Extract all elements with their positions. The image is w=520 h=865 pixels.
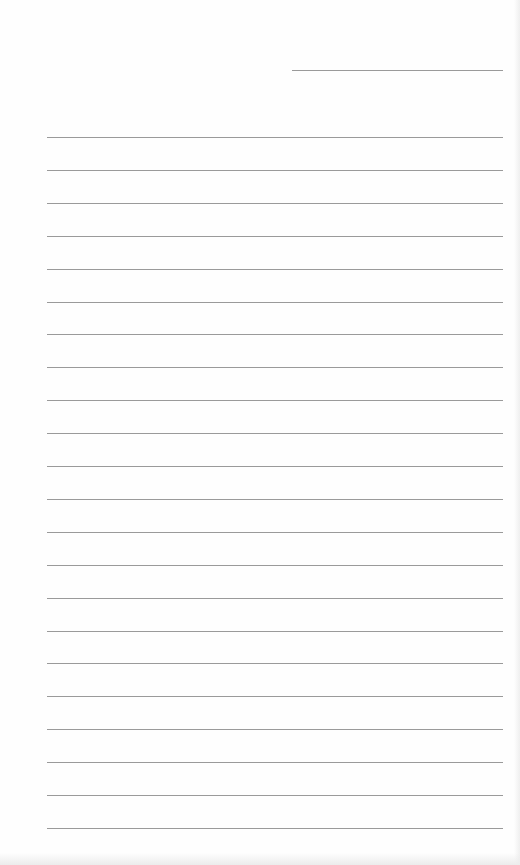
ruled-line <box>47 762 503 763</box>
ruled-line <box>47 203 503 204</box>
ruled-line <box>47 631 503 632</box>
ruled-line <box>47 663 503 664</box>
ruled-line <box>47 302 503 303</box>
ruled-line <box>47 696 503 697</box>
ruled-line <box>47 598 503 599</box>
ruled-line <box>47 433 503 434</box>
ruled-line <box>47 466 503 467</box>
ruled-line <box>47 269 503 270</box>
ruled-line <box>47 236 503 237</box>
ruled-line <box>47 334 503 335</box>
header-date-line <box>292 70 503 71</box>
ruled-line <box>47 170 503 171</box>
ruled-line <box>47 565 503 566</box>
page-edge-shadow-bottom <box>0 853 520 865</box>
ruled-line <box>47 400 503 401</box>
ruled-line <box>47 828 503 829</box>
ruled-line <box>47 137 503 138</box>
ruled-line <box>47 795 503 796</box>
ruled-line <box>47 532 503 533</box>
ruled-line <box>47 729 503 730</box>
page-edge-shadow-right <box>514 0 520 865</box>
ruled-line <box>47 367 503 368</box>
lined-paper-page <box>0 0 520 865</box>
ruled-line <box>47 499 503 500</box>
